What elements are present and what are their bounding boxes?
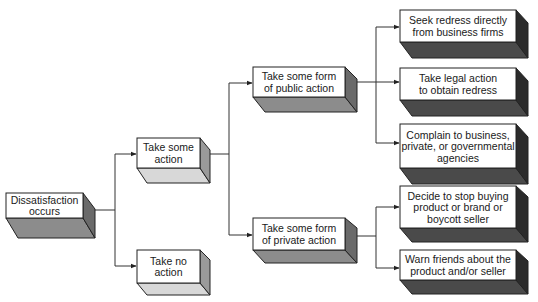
edge-to-complain	[376, 82, 399, 143]
node-public-action: Take some formof public action	[253, 67, 357, 112]
node-label-line: action	[154, 153, 182, 165]
node-label-line: Take no	[150, 255, 187, 267]
node-legal-action: Take legal actionto obtain redress	[400, 68, 528, 116]
node-warn-friends: Warn friends about theproduct and/or sel…	[400, 250, 528, 294]
node-label-line: of public action	[264, 82, 334, 94]
node-label-line: occurs	[29, 205, 60, 217]
edge-to-warn-friends	[376, 236, 399, 268]
node-label-line: Take some	[143, 141, 194, 153]
node-label-line: Warn friends about the	[405, 253, 511, 265]
node-no-action: Take noaction	[137, 250, 210, 295]
node-seek-redress: Seek redress directlyfrom business firms	[400, 10, 528, 58]
node-private-action: Take some formof private action	[253, 218, 357, 263]
node-label-line: Take legal action	[419, 72, 497, 84]
node-label-line: private, or governmental	[401, 140, 514, 152]
edge-to-stop-buying	[376, 207, 399, 236]
edge-to-private-action	[229, 154, 252, 235]
edge-to-take-action	[115, 154, 136, 210]
box-bottom-face	[400, 168, 528, 184]
node-label-line: agencies	[437, 152, 479, 164]
node-stop-buying: Decide to stop buyingproduct or brand or…	[400, 186, 528, 242]
box-bottom-face	[400, 280, 528, 294]
node-label-line: Seek redress directly	[409, 14, 508, 26]
node-label-line: action	[154, 266, 182, 278]
node-label-line: Dissatisfaction	[11, 194, 79, 206]
box-bottom-face	[137, 283, 210, 295]
box-bottom-face	[6, 218, 95, 238]
node-take-action: Take someaction	[137, 138, 210, 183]
edge-to-no-action	[115, 210, 136, 266]
box-bottom-face	[253, 97, 357, 112]
node-label-line: from business firms	[412, 26, 503, 38]
node-label-line: Decide to stop buying	[408, 190, 509, 202]
box-bottom-face	[253, 250, 357, 263]
node-label-line: of private action	[262, 234, 336, 246]
box-bottom-face	[400, 42, 528, 58]
node-label-line: to obtain redress	[419, 84, 497, 96]
box-bottom-face	[400, 228, 528, 242]
edge-to-seek-redress	[376, 27, 399, 82]
box-bottom-face	[137, 168, 210, 183]
node-label-line: product or brand or	[413, 201, 503, 213]
box-bottom-face	[400, 100, 528, 116]
node-dissatisfaction: Dissatisfactionoccurs	[6, 193, 95, 238]
edge-to-public-action	[229, 83, 252, 154]
nodes: DissatisfactionoccursTake someactionTake…	[6, 10, 528, 295]
node-label-line: Take some form	[262, 222, 337, 234]
node-label-line: Take some form	[262, 70, 337, 82]
node-complain: Complain to business,private, or governm…	[400, 124, 528, 184]
consumer-dissatisfaction-flowchart: DissatisfactionoccursTake someactionTake…	[0, 0, 538, 302]
node-label-line: Complain to business,	[406, 129, 509, 141]
node-label-line: product and/or seller	[410, 265, 506, 277]
node-label-line: boycott seller	[427, 213, 489, 225]
